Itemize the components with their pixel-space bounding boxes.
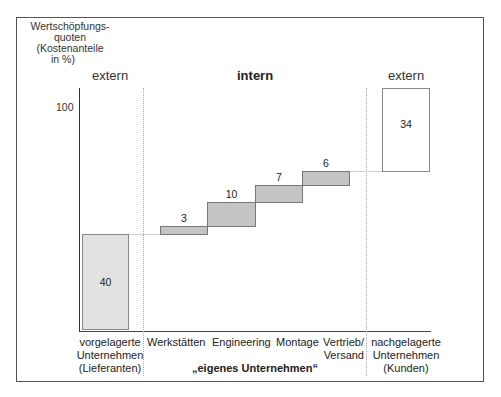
- category-line: Vertrieb/: [318, 336, 364, 349]
- bar-label-lieferanten: 40: [82, 276, 129, 288]
- category-vertrieb: Vertrieb/ Versand: [318, 336, 364, 362]
- category-lieferanten: vorgelagerte Unternehmen (Lieferanten): [72, 336, 148, 375]
- category-werkstaetten: Werkstätten: [147, 336, 206, 349]
- bar-label-engineering: 10: [207, 188, 256, 200]
- connector-40-3: [128, 234, 160, 235]
- section-extern-left: extern: [92, 68, 128, 83]
- separator-left: [143, 88, 144, 376]
- category-engineering: Engineering: [212, 336, 271, 349]
- category-line: Versand: [318, 349, 364, 362]
- bar-werkstaetten: [160, 226, 208, 235]
- section-extern-right: extern: [388, 68, 424, 83]
- category-line: nachgelagerte: [368, 336, 444, 349]
- y-axis-line: [79, 88, 80, 332]
- section-intern: intern: [237, 68, 273, 83]
- bar-label-werkstaetten: 3: [160, 212, 208, 224]
- group-label-eigenes-unternehmen: „eigenes Unternehmen“: [192, 362, 318, 374]
- separator-right: [366, 88, 367, 376]
- bar-label-montage: 7: [255, 171, 303, 183]
- category-line: (Kunden): [368, 362, 444, 375]
- category-line: Unternehmen: [368, 349, 444, 362]
- y-axis-title: Wertschöpfungs- quoten (Kostenanteile in…: [20, 21, 120, 65]
- connector-6-34: [350, 171, 382, 172]
- bar-label-kunden: 34: [382, 118, 430, 130]
- category-montage: Montage: [276, 336, 319, 349]
- bar-kunden: [382, 88, 430, 172]
- x-axis-baseline: [79, 331, 431, 332]
- category-line: Unternehmen: [72, 349, 148, 362]
- bar-label-vertrieb: 6: [302, 157, 350, 169]
- bar-engineering: [207, 202, 256, 227]
- bar-montage: [255, 185, 303, 203]
- y-tick-100: 100: [56, 101, 74, 113]
- category-kunden: nachgelagerte Unternehmen (Kunden): [368, 336, 444, 375]
- category-line: (Lieferanten): [72, 362, 148, 375]
- y-title-line-4: in %): [20, 54, 120, 65]
- category-line: vorgelagerte: [72, 336, 148, 349]
- bar-vertrieb: [302, 171, 350, 186]
